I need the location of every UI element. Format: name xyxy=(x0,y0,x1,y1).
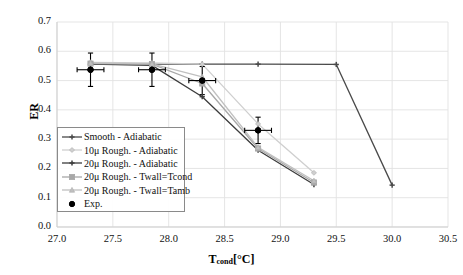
legend-marker-icon xyxy=(61,171,83,183)
legend-item-label: 20μ Rough. - Adiabatic xyxy=(83,158,178,169)
x-tick-label: 28.5 xyxy=(205,233,245,244)
legend-item-label: 10μ Rough. - Adiabatic xyxy=(83,145,178,156)
y-tick-label: 0.1 xyxy=(21,191,51,202)
legend-item-label: 20μ Rough. - Twall=Tcond xyxy=(83,171,192,182)
legend-item-label: Exp. xyxy=(83,198,103,209)
y-tick-label: 0.0 xyxy=(21,220,51,231)
legend-item[interactable]: 10μ Rough. - Adiabatic xyxy=(61,143,181,156)
legend-item[interactable]: Smooth - Adiabatic xyxy=(61,130,181,143)
x-tick-label: 29.5 xyxy=(316,233,356,244)
x-axis-label: Tcond[°C] xyxy=(0,252,463,267)
x-tick-label: 29.0 xyxy=(260,233,300,244)
y-tick-label: 0.3 xyxy=(21,132,51,143)
legend-item-label: 20μ Rough. - Twall=Tamb xyxy=(83,185,190,196)
y-tick-label: 0.6 xyxy=(21,44,51,55)
legend-item[interactable]: 20μ Rough. - Adiabatic xyxy=(61,157,181,170)
legend-marker-icon xyxy=(61,184,83,196)
y-tick-label: 0.4 xyxy=(21,103,51,114)
x-axis-label-subscript: cond xyxy=(217,257,233,266)
legend-marker-icon xyxy=(61,144,83,156)
legend-item[interactable]: Exp. xyxy=(61,197,181,210)
x-axis-label-unit: [°C] xyxy=(233,252,254,266)
y-tick-label: 0.2 xyxy=(21,161,51,172)
x-tick-label: 27.5 xyxy=(93,233,133,244)
chart-legend: Smooth - Adiabatic10μ Rough. - Adiabatic… xyxy=(57,127,185,212)
y-tick-label: 0.5 xyxy=(21,74,51,85)
x-tick-label: 28.0 xyxy=(149,233,189,244)
y-tick-label: 0.7 xyxy=(21,15,51,26)
x-tick-label: 27.0 xyxy=(37,233,77,244)
legend-item-label: Smooth - Adiabatic xyxy=(83,131,162,142)
legend-item[interactable]: 20μ Rough. - Twall=Tamb xyxy=(61,184,181,197)
x-axis-label-base: T xyxy=(209,252,217,266)
x-tick-label: 30.5 xyxy=(428,233,463,244)
legend-marker-icon xyxy=(61,198,83,210)
legend-marker-icon xyxy=(61,131,83,143)
legend-item[interactable]: 20μ Rough. - Twall=Tcond xyxy=(61,170,181,183)
legend-marker-icon xyxy=(61,157,83,169)
x-tick-label: 30.0 xyxy=(372,233,412,244)
